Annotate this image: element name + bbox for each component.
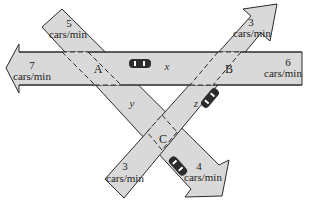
car-icon-horizontal bbox=[129, 59, 151, 68]
node-c: C bbox=[159, 132, 167, 146]
traffic-network-diagram: 5 cars/min 7 cars/min 3 cars/min 6 cars/… bbox=[0, 0, 310, 208]
node-b: B bbox=[225, 62, 233, 76]
node-a: A bbox=[94, 62, 103, 76]
label-bottom-left-unit: cars/min bbox=[106, 172, 144, 184]
label-bottom-right-unit: cars/min bbox=[184, 171, 222, 183]
var-y: y bbox=[129, 97, 135, 109]
label-top-right-unit: cars/min bbox=[233, 27, 271, 39]
var-x: x bbox=[164, 60, 170, 72]
label-right-unit: cars/min bbox=[264, 67, 302, 79]
label-top-left-unit: cars/min bbox=[49, 28, 87, 40]
road-horizontal bbox=[6, 44, 302, 93]
var-z: z bbox=[193, 97, 199, 109]
label-bottom-left-num: 3 bbox=[122, 160, 128, 172]
label-left-unit: cars/min bbox=[13, 70, 51, 82]
